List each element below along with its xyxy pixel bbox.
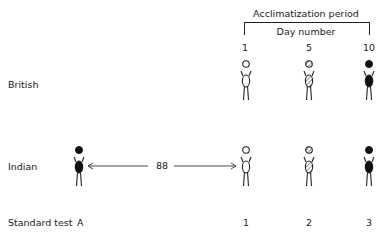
standard-test-1: 1 [243, 218, 249, 228]
standard-test-a: A [77, 218, 84, 228]
day-5-label: 5 [306, 43, 312, 53]
british-day1-figure-open [238, 60, 254, 104]
day-number-label: Day number [277, 27, 336, 37]
acclimatization-period-label: Acclimatization period [253, 9, 359, 19]
row-label-indian: Indian [8, 162, 37, 172]
standard-test-2: 2 [306, 218, 312, 228]
row-label-british: British [8, 80, 38, 90]
standard-test-3: 3 [366, 218, 372, 228]
indian-standard-figure-filled [71, 146, 87, 190]
british-day5-figure-hatched [301, 60, 317, 104]
day-1-label: 1 [242, 43, 248, 53]
british-day10-figure-filled [361, 60, 377, 104]
day-10-label: 10 [363, 43, 375, 53]
indian-day10-figure-filled [361, 146, 377, 190]
indian-day1-figure-open [238, 146, 254, 190]
arrow-label: 88 [156, 161, 168, 171]
standard-test-label: Standard test [8, 218, 72, 228]
indian-day5-figure-hatched [301, 146, 317, 190]
